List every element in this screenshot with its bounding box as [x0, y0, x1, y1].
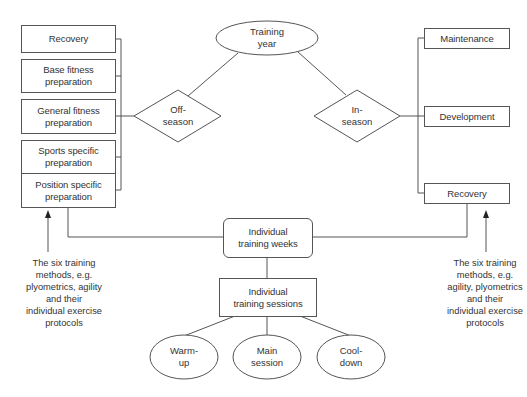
- right-arrow-head: [483, 210, 489, 218]
- annotation-line: The six training: [429, 257, 527, 269]
- phase-label: Development: [440, 111, 495, 123]
- left-to-weeks-line: [68, 207, 223, 237]
- in-season-phase-maintenance: Maintenance: [424, 28, 510, 49]
- in-season-phase-development: Development: [424, 106, 510, 127]
- phase-label: preparation: [45, 157, 92, 169]
- off-season-phase-sports-specific: Sports specific preparation: [21, 140, 116, 174]
- in-season-annotation: The six training methods, e.g. agility, …: [429, 257, 527, 329]
- off-season-phase-recovery: Recovery: [21, 25, 116, 53]
- individual-training-sessions: Individual training sessions: [219, 278, 317, 317]
- annotation-line: protocols: [8, 317, 120, 329]
- annotation-line: individual exercise: [8, 305, 120, 317]
- annotation-line: The six training: [8, 257, 120, 269]
- training-year-label-1: Training: [250, 26, 284, 38]
- off-season-annotation: The six training methods, e.g. plyometri…: [8, 257, 120, 329]
- part-label: session: [251, 357, 283, 369]
- weeks-label-2: training weeks: [238, 238, 297, 250]
- in-season-phase-recovery: Recovery: [424, 183, 510, 204]
- main-session-node: Main session: [237, 344, 297, 370]
- annotation-line: and their: [8, 293, 120, 305]
- annotation-line: methods, e.g.: [8, 269, 120, 281]
- phase-label: Base fitness: [43, 64, 94, 76]
- phase-label: Position specific: [35, 179, 101, 191]
- annotation-line: plyometrics, agility: [8, 281, 120, 293]
- phase-label: Maintenance: [440, 33, 493, 45]
- root-to-offseason-line: [188, 53, 238, 96]
- off-season-phase-general-fitness: General fitness preparation: [21, 99, 116, 134]
- off-season-node: Off- season: [148, 103, 208, 129]
- part-label: up: [179, 357, 190, 369]
- right-to-weeks-line: [312, 203, 467, 237]
- part-label: Main: [257, 345, 278, 357]
- sessions-label-1: Individual: [248, 286, 287, 298]
- annotation-line: methods, e.g.: [429, 269, 527, 281]
- weeks-label-1: Individual: [248, 226, 287, 238]
- part-label: Warm-: [170, 345, 198, 357]
- training-year-label-2: year: [258, 38, 276, 50]
- root-to-inseason-line: [298, 52, 346, 95]
- annotation-line: agility, plyometrics: [429, 281, 527, 293]
- phase-label: preparation: [45, 117, 92, 129]
- in-season-label-1: In-: [351, 104, 362, 116]
- phase-label: Recovery: [49, 33, 88, 45]
- cool-down-node: Cool- down: [321, 344, 381, 370]
- left-arrow-head: [45, 210, 51, 218]
- annotation-line: individual exercise: [429, 305, 527, 317]
- phase-label: preparation: [45, 76, 92, 88]
- off-season-label-1: Off-: [170, 104, 186, 116]
- in-season-node: In- season: [327, 103, 387, 129]
- training-year-node: Training year: [216, 24, 318, 52]
- individual-training-weeks: Individual training weeks: [223, 218, 313, 258]
- phase-label: Recovery: [447, 188, 486, 200]
- warm-up-node: Warm- up: [154, 344, 214, 370]
- phase-label: Sports specific: [38, 145, 98, 157]
- annotation-line: and their: [429, 293, 527, 305]
- phase-label: General fitness: [37, 105, 99, 117]
- sessions-label-2: training sessions: [233, 298, 302, 310]
- part-label: Cool-: [340, 345, 363, 357]
- off-season-phase-position-specific: Position specific preparation: [21, 173, 116, 208]
- off-season-phase-base-fitness: Base fitness preparation: [21, 59, 116, 93]
- annotation-line: protocols: [429, 317, 527, 329]
- off-season-label-2: season: [163, 116, 194, 128]
- part-label: down: [340, 357, 363, 369]
- phase-label: preparation: [45, 191, 92, 203]
- in-season-label-2: season: [342, 116, 373, 128]
